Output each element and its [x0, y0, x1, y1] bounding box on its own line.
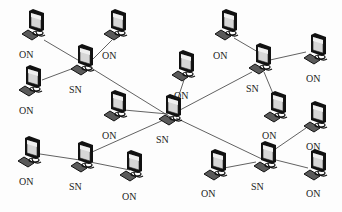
edge-on11-sn4 [224, 162, 256, 168]
computer-icon [120, 150, 143, 181]
ordinary-node-on13: ON [120, 150, 143, 202]
edge-on12-sn5 [40, 154, 80, 160]
ordinary-node-on11: ON [201, 149, 227, 199]
diagram-canvas: SNSNSNSNSNONONONONONONONONONONONONON [0, 0, 342, 212]
node-label: SN [156, 134, 169, 145]
computer-icon [104, 9, 127, 40]
computer-icon [18, 136, 41, 167]
ordinary-node-on5: ON [172, 50, 195, 101]
super-node-sn1: SN [69, 44, 94, 95]
node-label: ON [122, 191, 136, 202]
node-label: ON [213, 50, 227, 61]
computer-icon [304, 149, 327, 180]
computer-icon [172, 50, 195, 81]
node-label: ON [19, 105, 33, 116]
node-label: SN [69, 181, 82, 192]
node-label: ON [19, 49, 33, 60]
computer-icon [71, 141, 94, 172]
edge-on3-sn1 [42, 68, 74, 80]
ordinary-node-on8: ON [262, 91, 287, 141]
computer-icon [104, 90, 127, 121]
node-label: ON [306, 73, 320, 84]
network-diagram: SNSNSNSNSNONONONONONONONONONONONONON [0, 0, 342, 212]
node-label: ON [262, 130, 276, 141]
super-node-sn2: SN [156, 94, 182, 145]
computer-icon [215, 9, 238, 40]
edge-on6-sn3 [234, 38, 258, 52]
super-node-sn5: SN [69, 141, 94, 192]
edge-sn4-on9 [274, 128, 306, 150]
ordinary-node-on9: ON [304, 101, 327, 152]
computer-icon [304, 101, 327, 132]
ordinary-node-on4: ON [102, 90, 127, 141]
nodes-layer: SNSNSNSNSNONONONONONONONONONONONONON [18, 9, 327, 202]
node-label: ON [201, 188, 215, 199]
node-label: ON [102, 50, 116, 61]
edge-sn2-sn3 [180, 72, 252, 110]
ordinary-node-on7: ON [304, 33, 327, 84]
computer-icon [22, 9, 45, 40]
computer-icon [304, 33, 327, 64]
ordinary-node-on10: ON [304, 149, 327, 199]
edge-on4-sn2 [124, 110, 168, 114]
computer-icon [204, 149, 227, 180]
computer-icon [264, 91, 287, 122]
ordinary-node-on12: ON [18, 136, 41, 187]
node-label: ON [306, 188, 320, 199]
edge-sn4-on10 [276, 160, 308, 168]
ordinary-node-on6: ON [213, 9, 238, 61]
computer-icon [249, 43, 272, 74]
super-node-sn4: SN [251, 141, 277, 192]
node-label: ON [102, 130, 116, 141]
node-label: ON [19, 176, 33, 187]
ordinary-node-on3: ON [19, 65, 42, 116]
node-label: SN [69, 84, 82, 95]
computer-icon [71, 44, 94, 75]
edge-sn5-on13 [90, 162, 130, 170]
computer-icon [19, 65, 42, 96]
ordinary-node-on1: ON [19, 9, 45, 60]
super-node-sn3: SN [246, 43, 272, 94]
edge-sn3-on7 [270, 52, 306, 60]
node-label: SN [251, 181, 264, 192]
ordinary-node-on2: ON [102, 9, 127, 61]
node-label: ON [174, 90, 188, 101]
node-label: SN [246, 83, 259, 94]
